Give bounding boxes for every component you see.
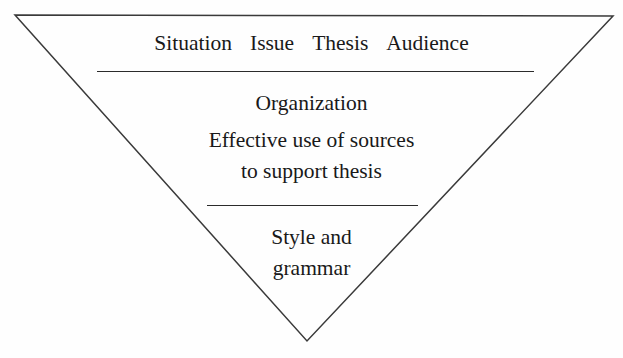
divider-top: [97, 71, 534, 72]
tier-1-criteria-row: SituationIssueThesisAudience: [0, 30, 623, 56]
divider-bottom: [207, 205, 418, 206]
tier-2-line-effective-use: Effective use of sources: [0, 127, 623, 153]
criterion-audience: Audience: [377, 30, 477, 56]
tier-3-text-block: Style and grammar: [0, 224, 623, 286]
tier-2-line-organization: Organization: [0, 90, 623, 116]
tier-3-line-grammar: grammar: [0, 255, 623, 281]
tier-2-line-support-thesis: to support thesis: [0, 158, 623, 184]
tier-3-line-style-and: Style and: [0, 224, 623, 250]
diagram-canvas: SituationIssueThesisAudience Organizatio…: [0, 0, 623, 358]
criterion-situation: Situation: [145, 30, 241, 56]
criterion-thesis: Thesis: [303, 30, 377, 56]
criterion-issue: Issue: [241, 30, 303, 56]
tier-2-text-block: Organization Effective use of sources to…: [0, 90, 623, 190]
